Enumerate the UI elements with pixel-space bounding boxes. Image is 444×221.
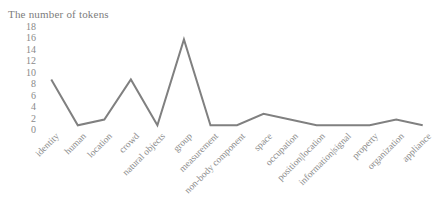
x-tick-label: location	[86, 131, 115, 160]
x-axis: identityhumanlocationcrowdnatural object…	[0, 131, 444, 221]
x-tick-label: crowd	[117, 131, 141, 155]
y-tick-label: 18	[26, 22, 36, 32]
x-tick-label: space	[252, 131, 274, 153]
y-tick-label: 10	[26, 68, 36, 78]
plot-area	[38, 28, 436, 131]
y-tick-label: 4	[31, 102, 36, 112]
y-tick-label: 8	[31, 79, 36, 89]
y-axis: 024681012141618	[14, 27, 36, 135]
x-tick-label: identity	[34, 131, 62, 159]
series-polyline	[51, 39, 422, 125]
series-line	[38, 28, 436, 131]
chart-figure: The number of tokens 024681012141618 ide…	[0, 0, 444, 221]
x-tick-label: group	[171, 131, 194, 154]
y-tick-label: 12	[26, 56, 36, 66]
chart-title: The number of tokens	[8, 8, 109, 20]
x-tick-label: human	[63, 131, 88, 156]
y-tick-label: 2	[31, 114, 36, 124]
y-tick-label: 16	[26, 33, 36, 43]
y-tick-label: 14	[26, 45, 36, 55]
y-tick-label: 6	[31, 91, 36, 101]
